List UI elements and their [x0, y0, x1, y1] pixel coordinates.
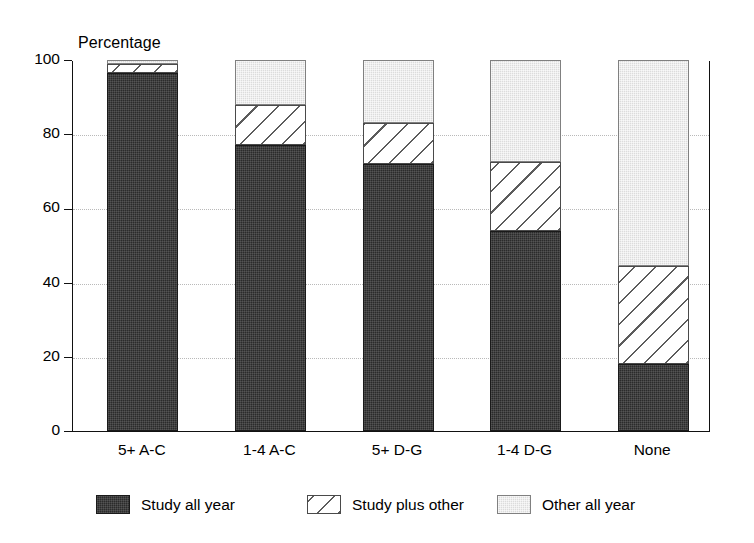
y-axis-tick-label: 40: [14, 273, 60, 291]
x-axis-tick-label: 5+ D-G: [327, 441, 467, 459]
y-axis-title: Percentage: [78, 34, 161, 52]
legend-label: Study all year: [141, 495, 235, 514]
legend-item[interactable]: Study all year: [96, 495, 235, 514]
legend-swatch-icon: [96, 495, 130, 514]
legend-swatch-icon: [307, 495, 341, 514]
y-axis-tick-label: 20: [14, 347, 60, 365]
bar-segment: [107, 60, 178, 64]
x-axis-tick-label: 1-4 D-G: [455, 441, 595, 459]
y-axis-tick: [64, 431, 72, 432]
stacked-bar-chart: Percentage 020406080100 5+ A-C1-4 A-C5+ …: [0, 0, 754, 543]
x-axis-tick-label: None: [582, 441, 722, 459]
y-axis-tick: [64, 209, 72, 210]
bar-segment: [363, 123, 434, 164]
x-axis-tick-label: 5+ A-C: [72, 441, 212, 459]
y-axis-tick-label: 60: [14, 198, 60, 216]
bar-5: [618, 60, 689, 431]
plot-area: [72, 61, 710, 432]
bar-segment: [363, 164, 434, 431]
y-axis-tick: [64, 134, 72, 135]
bar-segment: [363, 60, 434, 123]
legend-swatch-icon: [497, 495, 531, 514]
bar-4: [490, 60, 561, 431]
x-axis-tick-label: 1-4 A-C: [199, 441, 339, 459]
bar-segment: [107, 73, 178, 431]
bar-2: [235, 60, 306, 431]
chart-legend: Study all yearStudy plus otherOther all …: [0, 495, 754, 525]
legend-item[interactable]: Study plus other: [307, 495, 464, 514]
bar-segment: [235, 145, 306, 431]
bar-segment: [235, 60, 306, 105]
bar-1: [107, 60, 178, 431]
y-axis-tick-label: 100: [14, 50, 60, 68]
legend-label: Other all year: [542, 495, 635, 514]
y-axis-tick: [64, 60, 72, 61]
bar-segment: [107, 64, 178, 73]
legend-item[interactable]: Other all year: [497, 495, 635, 514]
y-axis-tick-label: 80: [14, 124, 60, 142]
bar-segment: [618, 60, 689, 266]
bar-segment: [618, 266, 689, 364]
bar-segment: [235, 105, 306, 146]
legend-label: Study plus other: [352, 495, 464, 514]
y-axis-tick: [64, 283, 72, 284]
bar-segment: [618, 364, 689, 431]
bar-group: [73, 61, 709, 431]
bar-segment: [490, 162, 561, 231]
bar-segment: [490, 60, 561, 162]
bar-segment: [490, 231, 561, 431]
y-axis-tick-label: 0: [14, 421, 60, 439]
y-axis-tick: [64, 357, 72, 358]
bar-3: [363, 60, 434, 431]
